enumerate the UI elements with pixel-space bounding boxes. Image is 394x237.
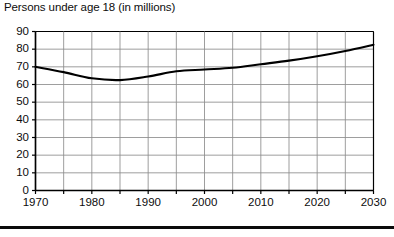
bottom-divider-rule <box>0 226 394 229</box>
y-axis-tick-label: 50 <box>3 96 29 108</box>
y-axis-tick-label: 60 <box>3 79 29 91</box>
x-axis-tick-label: 1970 <box>14 197 58 209</box>
y-axis-tick-label: 0 <box>3 185 29 197</box>
chart-figure: Persons under age 18 (in millions) 90807… <box>0 0 394 237</box>
y-axis-tick-label: 20 <box>3 149 29 161</box>
x-axis-tick-label: 1990 <box>126 197 170 209</box>
y-axis-tick-label: 70 <box>3 61 29 73</box>
x-axis-tick-label: 2010 <box>239 197 283 209</box>
y-axis-tick-label: 40 <box>3 114 29 126</box>
y-axis-tick-label: 10 <box>3 167 29 179</box>
x-axis-tick-label: 2000 <box>183 197 227 209</box>
x-axis-tick-label: 2030 <box>352 197 394 209</box>
x-axis-tick-label: 1980 <box>70 197 114 209</box>
x-axis-tick-label: 2020 <box>295 197 339 209</box>
y-axis-tick-label: 30 <box>3 132 29 144</box>
y-axis-tick-label: 80 <box>3 43 29 55</box>
y-axis-tick-label: 90 <box>3 26 29 38</box>
